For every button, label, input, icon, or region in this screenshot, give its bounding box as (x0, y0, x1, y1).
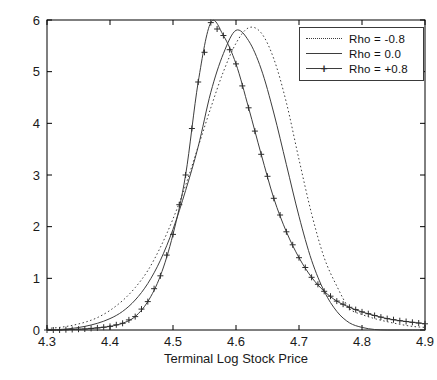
x-tick-label: 4.7 (290, 334, 308, 349)
x-tick-label: 4.4 (101, 334, 119, 349)
dotted-line-icon (306, 38, 342, 39)
x-axis-label: Terminal Log Stock Price (164, 351, 308, 366)
plus-marker-line-icon: + (306, 68, 342, 69)
y-tick-label: 0 (33, 323, 40, 338)
solid-line-icon (306, 53, 342, 54)
legend-entry-rho-zero: Rho = 0.0 (306, 46, 418, 61)
y-tick-label: 1 (33, 271, 40, 286)
legend: Rho = -0.8 Rho = 0.0 + Rho = +0.8 (299, 27, 424, 81)
x-tick-label: 4.9 (416, 334, 434, 349)
y-tick-label: 5 (33, 64, 40, 79)
x-tick-label: 4.8 (353, 334, 371, 349)
legend-label: Rho = -0.8 (349, 33, 405, 45)
legend-label: Rho = +0.8 (349, 63, 408, 75)
y-tick-label: 6 (33, 13, 40, 28)
legend-entry-rho-positive: + Rho = +0.8 (306, 61, 418, 76)
x-tick-label: 4.3 (38, 334, 56, 349)
y-tick-label: 3 (33, 168, 40, 183)
legend-entry-rho-negative: Rho = -0.8 (306, 31, 418, 46)
legend-label: Rho = 0.0 (349, 48, 401, 60)
x-tick-label: 4.5 (164, 334, 182, 349)
x-tick-label: 4.6 (227, 334, 245, 349)
heston-density-figure: 4.34.44.54.64.74.84.90123456Terminal Log… (0, 0, 437, 380)
y-tick-label: 4 (33, 116, 40, 131)
y-tick-label: 2 (33, 219, 40, 234)
